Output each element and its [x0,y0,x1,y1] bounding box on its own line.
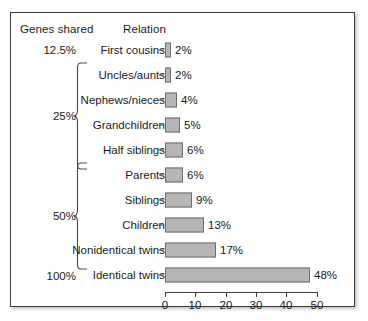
bar [165,143,183,158]
value-label: 48% [314,269,337,281]
bar [165,43,171,58]
axis-tick-mark [159,275,164,276]
bar [165,268,310,283]
table-row: Parents 6% [0,163,368,187]
axis-tick-mark [159,250,164,251]
x-axis-line [165,292,317,293]
axis-tick-mark [159,100,164,101]
value-label: 6% [187,169,204,181]
x-axis-tick-label: 30 [250,299,263,311]
x-axis-tick [286,292,287,297]
bar [165,193,192,208]
x-axis-tick-label: 40 [280,299,293,311]
axis-tick-mark [159,125,164,126]
table-row: Nephews/nieces 4% [0,88,368,112]
value-label: 4% [181,94,198,106]
bar [165,168,183,183]
category-label: Identical twins [93,269,165,281]
table-row: Grandchildren 5% [0,113,368,137]
x-axis-tick-label: 0 [162,299,168,311]
value-label: 5% [184,119,201,131]
axis-tick-mark [159,150,164,151]
category-label: First cousins [100,44,165,56]
x-axis-tick-label: 20 [220,299,233,311]
axis-tick-mark [159,75,164,76]
axis-tick-mark [159,175,164,176]
category-label: Uncles/aunts [99,69,165,81]
axis-tick-mark [159,225,164,226]
bar [165,68,171,83]
plot-area: First cousins 2% Uncles/aunts 2% Nephews… [0,0,368,321]
table-row: Children 13% [0,213,368,237]
x-axis-tick-label: 50 [311,299,324,311]
table-row: Uncles/aunts 2% [0,63,368,87]
value-label: 13% [208,219,231,231]
value-label: 2% [175,44,192,56]
x-axis-tick [317,292,318,297]
x-axis-tick [165,292,166,297]
table-row: Siblings 9% [0,188,368,212]
bar [165,118,180,133]
table-row: Identical twins 48% [0,263,368,287]
table-row: Half siblings 6% [0,138,368,162]
x-axis-tick [256,292,257,297]
table-row: Nonidentical twins 17% [0,238,368,262]
axis-tick-mark [159,50,164,51]
category-label: Grandchildren [93,119,165,131]
table-row: First cousins 2% [0,38,368,62]
bar [165,243,216,258]
x-axis-tick [226,292,227,297]
value-label: 2% [175,69,192,81]
axis-tick-mark [159,200,164,201]
value-label: 6% [187,144,204,156]
value-label: 17% [220,244,243,256]
category-label: Nephews/nieces [81,94,165,106]
x-axis-tick [195,292,196,297]
category-label: Half siblings [103,144,165,156]
chart-root: Genes shared Relation 12.5% 25% 50% 100%… [0,0,368,321]
category-label: Nonidentical twins [72,244,165,256]
x-axis-tick-label: 10 [189,299,202,311]
value-label: 9% [196,194,213,206]
bar [165,93,177,108]
bar [165,218,204,233]
